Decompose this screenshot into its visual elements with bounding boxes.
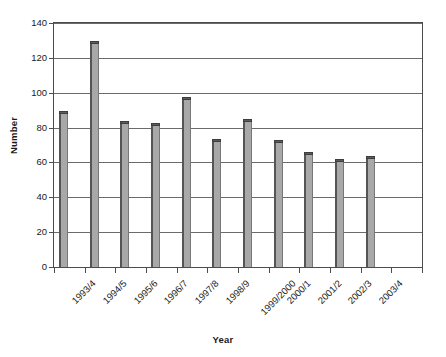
bar-slot — [146, 23, 177, 267]
y-axis-tick-label: 80 — [7, 123, 47, 133]
y-axis-tick-label: 140 — [7, 18, 47, 28]
bar-slot — [330, 23, 361, 267]
x-axis-tick-mark — [361, 267, 362, 273]
bar-top-cap — [212, 139, 221, 142]
bar — [59, 114, 68, 267]
bar-slot — [361, 23, 392, 267]
bar-slot — [177, 23, 208, 267]
y-axis-tick-label: 20 — [7, 227, 47, 237]
bar — [366, 159, 375, 267]
bar-slot — [299, 23, 330, 267]
bar — [182, 100, 191, 267]
y-axis-tick-label: 60 — [7, 158, 47, 168]
x-axis-tick-mark — [115, 267, 116, 273]
x-axis-tick-mark — [207, 267, 208, 273]
x-axis-tick-mark — [85, 267, 86, 273]
bar — [151, 126, 160, 267]
x-axis-tick-label: 2001/2 — [316, 278, 343, 305]
x-axis-tick-label: 1994/5 — [101, 278, 128, 305]
bar-slot — [85, 23, 116, 267]
bar-top-cap — [90, 41, 99, 44]
x-axis-tick-mark — [54, 267, 55, 273]
y-axis-tick-label: 100 — [7, 88, 47, 98]
x-axis-tick-mark — [269, 267, 270, 273]
x-axis-tick-label: 1998/9 — [224, 278, 251, 305]
bar — [212, 142, 221, 267]
bar — [120, 124, 129, 267]
bar-top-cap — [274, 140, 283, 143]
x-axis-tick-label: 1995/6 — [132, 278, 159, 305]
x-axis-title: Year — [0, 334, 446, 345]
bar — [274, 143, 283, 267]
bar — [90, 44, 99, 267]
y-axis-tick-label: 40 — [7, 193, 47, 203]
bar-slot — [238, 23, 269, 267]
bar-top-cap — [304, 152, 313, 155]
x-axis-tick-label: 1996/7 — [162, 278, 189, 305]
bar-top-cap — [151, 123, 160, 126]
bar — [304, 155, 313, 267]
x-axis-tick-label: 1997/8 — [193, 278, 220, 305]
plot-area: 020406080100120140 — [53, 22, 423, 268]
x-axis-tick-mark — [391, 267, 392, 273]
bar — [335, 162, 344, 267]
bar-top-cap — [243, 119, 252, 122]
x-axis-tick-mark — [299, 267, 300, 273]
y-axis-tick-label: 0 — [7, 262, 47, 272]
bar-chart: Number 020406080100120140 Year 1993/4199… — [0, 0, 446, 357]
bar-top-cap — [182, 97, 191, 100]
x-axis-tick-mark — [422, 267, 423, 273]
y-axis-tick-label: 120 — [7, 53, 47, 63]
bar-top-cap — [335, 159, 344, 162]
bar-slot — [54, 23, 85, 267]
bar-top-cap — [120, 121, 129, 124]
x-axis-tick-mark — [146, 267, 147, 273]
bar-top-cap — [366, 156, 375, 159]
bar-slot — [115, 23, 146, 267]
x-axis-tick-label: 2003/4 — [377, 278, 404, 305]
bar-slot — [207, 23, 238, 267]
x-axis-tick-mark — [330, 267, 331, 273]
x-axis-tick-label: 1993/4 — [70, 278, 97, 305]
bar-slot — [269, 23, 300, 267]
bar-top-cap — [59, 111, 68, 114]
x-axis-tick-mark — [238, 267, 239, 273]
x-axis-tick-mark — [177, 267, 178, 273]
x-axis-tick-label: 2002/3 — [346, 278, 373, 305]
bar — [243, 122, 252, 267]
